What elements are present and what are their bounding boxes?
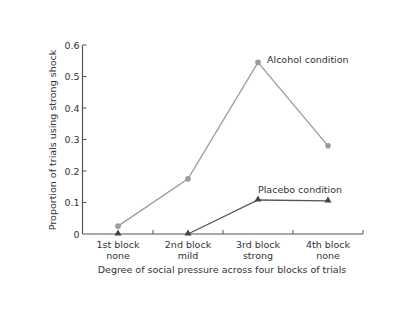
x-category-label: 2nd block [165,239,212,250]
data-point [115,223,121,229]
alcohol-annotation: Alcohol condition [267,54,349,65]
x-category-sublabel: none [316,250,340,261]
y-tick-label: 0.3 [64,134,79,145]
y-axis: 00.10.20.30.40.50.6 [64,40,86,240]
data-point [325,143,331,149]
y-tick-label: 0.5 [64,71,79,82]
x-category-label: 3rd block [236,239,281,250]
placebo-series [115,195,332,235]
y-axis-title: Proportion of trials using strong shock [47,49,58,230]
x-axis-title: Degree of social pressure across four bl… [98,264,347,275]
data-point [325,196,332,202]
x-category-sublabel: mild [178,250,199,261]
line-chart: 00.10.20.30.40.50.6 1st blocknone2nd blo… [0,0,412,313]
data-point [115,230,122,236]
alcohol-series [115,60,331,229]
y-tick-label: 0 [73,229,79,240]
data-point [185,176,191,182]
y-tick-label: 0.1 [64,197,79,208]
data-point [255,60,261,66]
data-point [255,195,262,201]
series-layer [115,60,332,236]
y-tick-label: 0.2 [64,166,79,177]
y-tick-label: 0.6 [64,40,79,51]
x-category-label: 4th block [306,239,351,250]
x-category-sublabel: strong [243,250,273,261]
placebo-annotation: Placebo condition [258,184,342,195]
x-category-label: 1st block [97,239,140,250]
x-category-sublabel: none [106,250,130,261]
y-tick-label: 0.4 [64,103,79,114]
x-axis: 1st blocknone2nd blockmild3rd blockstron… [83,230,364,261]
